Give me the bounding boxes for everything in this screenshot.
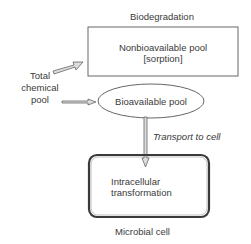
biodegradation-title: Biodegradation [130, 11, 194, 22]
total-chemical-pool-label: Total chemical pool [20, 70, 60, 106]
transport-arrow-icon [142, 117, 149, 167]
intracellular-transformation-label: Intracellular transformation [111, 176, 172, 198]
nonbioavailable-pool-label: Nonbioavailable pool [sorption] [88, 42, 238, 64]
diagram-canvas [0, 0, 251, 244]
transport-to-cell-label: Transport to cell [153, 131, 220, 142]
microbial-cell-caption: Microbial cell [115, 226, 170, 237]
bioavailable-pool-label: Bioavailable pool [98, 96, 204, 107]
arrow-to-bioavailable-icon [62, 99, 96, 105]
